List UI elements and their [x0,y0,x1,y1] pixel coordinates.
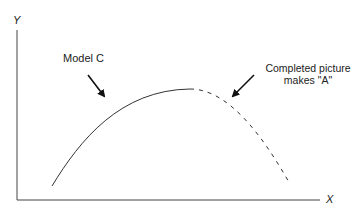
completed-picture-label: Completed picture makes "A" [260,62,356,86]
y-axis-label: Y [13,14,20,26]
x-axis-label: X [326,193,333,205]
dashed-curve [190,89,290,184]
completed-picture-line1: Completed picture [260,62,356,74]
diagram-canvas [0,0,356,213]
completed-picture-line2: makes "A" [260,74,356,86]
completed-picture-arrow [233,75,254,96]
solid-curve [52,89,190,186]
model-c-arrow [88,75,104,96]
model-c-label: Model C [63,52,104,64]
